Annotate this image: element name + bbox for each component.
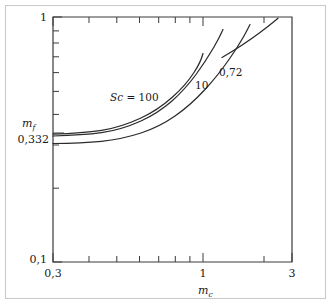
curve-label-sc-prefix: Sc [110, 91, 123, 103]
y-tick-label-01: 0,1 [30, 253, 48, 266]
axes-border [53, 17, 292, 262]
x-tick-label-03: 0,3 [44, 267, 62, 280]
x-axis-title: mc [198, 284, 213, 299]
data-curves [53, 18, 278, 143]
axes-frame [53, 17, 292, 262]
curve-label-sc-rest: = 100 [123, 91, 159, 103]
curve-sc-072 [53, 25, 250, 144]
x-axis-ticks [53, 17, 292, 262]
figure-container: 1 0,332 0,1 0,3 1 3 mf mc Sc = 100 10 0,… [0, 0, 332, 305]
x-axis-title-sub: c [208, 290, 213, 299]
y-axis-title-sub: f [31, 123, 36, 132]
curve-label-072: 0,72 [219, 66, 242, 78]
x-axis-title-base: m [198, 284, 208, 297]
y-tick-label-0332: 0,332 [18, 133, 50, 146]
curve-label-10: 10 [195, 79, 208, 91]
y-axis-title-base: m [22, 117, 32, 130]
curve-label-sc-100: Sc = 100 [110, 91, 159, 103]
y-tick-label-1: 1 [40, 11, 47, 24]
x-tick-label-1: 1 [200, 267, 207, 280]
y-axis-title: mf [22, 117, 36, 132]
y-axis-ticks [53, 17, 64, 262]
x-tick-label-3: 3 [289, 267, 296, 280]
chart-plot-area: 1 0,332 0,1 0,3 1 3 mf mc Sc = 100 10 0,… [0, 0, 332, 305]
